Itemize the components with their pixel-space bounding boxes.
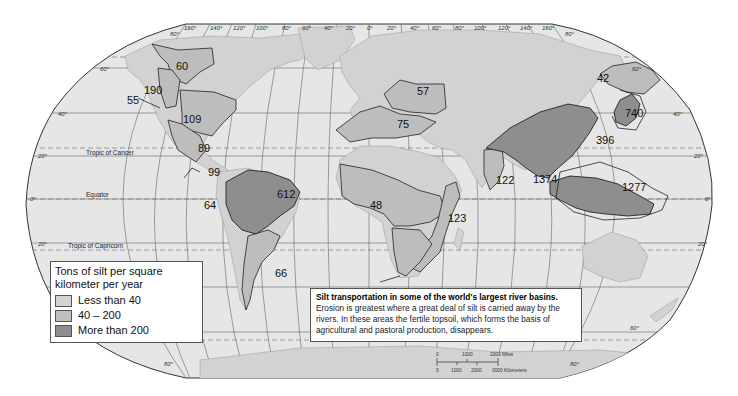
value-columbia: 55 [127,94,139,106]
tropic-of-cancer-label: Tropic of Cancer [86,149,135,157]
legend-swatch [55,310,72,322]
svg-text:120°: 120° [498,25,511,31]
svg-text:100°: 100° [474,25,487,31]
value-japan: 740 [625,107,643,119]
value-danube: 57 [417,85,429,97]
value-mississippi: 109 [183,113,201,125]
svg-text:20°: 20° [693,153,704,159]
value-parana: 66 [275,267,287,279]
legend-title: Tons of silt per square kilometer per ye… [55,265,198,291]
svg-text:40°: 40° [673,111,683,117]
svg-text:160°: 160° [542,25,555,31]
svg-text:80°: 80° [164,361,174,367]
svg-text:80°: 80° [570,361,580,367]
longitude-ticks: 160° 140° 120° 100° 80° 60° 40° 20° 0° 2… [184,25,555,31]
value-india: 122 [496,174,514,186]
svg-text:1000: 1000 [462,352,473,357]
value-se-asia: 1374 [533,173,557,185]
tropic-of-capricorn-label: Tropic of Capricorn [68,242,123,250]
svg-text:0°: 0° [705,196,711,202]
value-indonesia: 1277 [622,181,646,193]
svg-text:20°: 20° [386,25,397,31]
caption-box: Silt transportation in some of the world… [310,288,582,342]
svg-text:20°: 20° [37,153,48,159]
caption-title: Silt transportation in some of the world… [316,292,576,303]
scale-bar: 0 1000 2000 Miles 0 1000 2000 3000 Kilom… [436,350,566,378]
svg-text:100°: 100° [256,25,269,31]
svg-text:140°: 140° [520,25,533,31]
svg-text:0: 0 [436,368,439,373]
value-yukon: 60 [176,60,188,72]
svg-text:2000: 2000 [471,368,482,373]
svg-text:40°: 40° [410,25,420,31]
svg-text:3000 Kilometers: 3000 Kilometers [492,368,527,373]
svg-text:2000 Miles: 2000 Miles [490,352,514,357]
caption-body: Erosion is greatest where a great deal o… [316,303,576,336]
svg-text:20°: 20° [697,241,708,247]
value-east-africa: 123 [448,212,466,224]
svg-text:60°: 60° [632,66,642,72]
svg-text:80°: 80° [282,25,292,31]
lon-tick: 160° [184,25,197,31]
svg-text:120°: 120° [233,25,246,31]
svg-text:80°: 80° [170,31,180,37]
svg-text:0°: 0° [367,25,373,31]
legend-swatch [55,295,72,307]
svg-text:0: 0 [436,352,439,357]
legend-item-40-200: 40 – 200 [55,308,198,323]
svg-text:80°: 80° [455,25,465,31]
legend-swatch [55,325,72,337]
value-mediterranean: 75 [397,118,409,130]
svg-text:40°: 40° [324,25,334,31]
equator-label: Equator [86,191,110,199]
value-orinoco: 64 [204,199,216,211]
svg-text:40°: 40° [58,111,68,117]
legend-item-less-than-40: Less than 40 [55,293,198,308]
svg-text:60°: 60° [630,325,640,331]
svg-text:140°: 140° [210,25,223,31]
svg-text:60°: 60° [432,25,442,31]
value-west-africa: 48 [370,199,382,211]
svg-text:80°: 80° [565,31,575,37]
svg-text:20°: 20° [345,25,356,31]
value-amur: 42 [597,72,609,84]
svg-text:1000: 1000 [451,368,462,373]
value-rio-grande: 89 [198,142,210,154]
svg-text:20°: 20° [37,241,48,247]
legend-item-more-than-200: More than 200 [55,323,198,338]
value-amazon: 612 [277,188,295,200]
legend: Tons of silt per square kilometer per ye… [50,261,203,343]
value-central-america: 99 [208,166,220,178]
value-fraser: 190 [144,84,162,96]
value-china: 396 [596,134,614,146]
svg-text:60°: 60° [302,25,312,31]
svg-text:60°: 60° [100,66,110,72]
svg-text:0°: 0° [30,196,36,202]
